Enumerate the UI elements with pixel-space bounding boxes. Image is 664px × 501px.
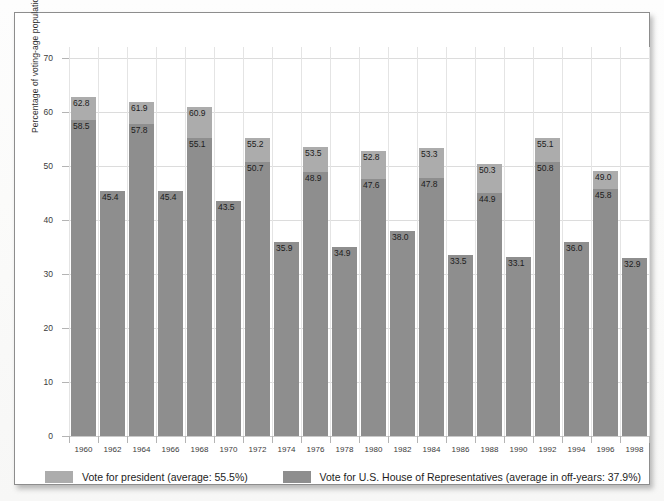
bar-value-house: 32.9 [624, 259, 641, 269]
y-tick-label: 70 [13, 53, 53, 63]
bar-1998[interactable]: 32.9 [622, 258, 647, 436]
bar-1970[interactable]: 43.5 [216, 201, 241, 436]
bar-1962[interactable]: 45.4 [100, 191, 125, 436]
y-tick-label: 60 [13, 107, 53, 117]
bar-value-house: 44.9 [479, 194, 496, 204]
x-gridline [649, 47, 650, 436]
bar-1960[interactable]: 58.562.8 [71, 97, 96, 436]
figure-container: Percentage of voting-age population part… [0, 0, 664, 501]
y-tick-mark [62, 328, 69, 329]
bar-1996[interactable]: 45.849.0 [593, 171, 618, 436]
x-tick-mark [214, 436, 215, 443]
bar-segment-house: 48.9 [303, 172, 328, 436]
bar-value-house: 57.8 [131, 125, 148, 135]
bar-1986[interactable]: 33.5 [448, 255, 473, 436]
bar-segment-house: 32.9 [622, 258, 647, 436]
x-tick-mark [388, 436, 389, 443]
legend-swatch-pres [45, 471, 73, 483]
bar-1976[interactable]: 48.953.5 [303, 147, 328, 436]
bar-value-president: 50.3 [479, 165, 496, 175]
bar-1984[interactable]: 47.853.3 [419, 148, 444, 436]
plot-area: 01020304050607058.562.845.457.861.945.45… [69, 47, 649, 436]
bar-segment-house: 33.1 [506, 257, 531, 436]
bar-value-house: 35.9 [276, 243, 293, 253]
bar-segment-president: 53.5 [303, 147, 328, 172]
x-gridline [562, 47, 563, 436]
bar-value-president: 53.5 [305, 148, 322, 158]
bar-1964[interactable]: 57.861.9 [129, 102, 154, 436]
bar-segment-president: 53.3 [419, 148, 444, 178]
bar-value-house: 43.5 [218, 202, 235, 212]
x-tick-mark [185, 436, 186, 443]
bar-value-president: 61.9 [131, 103, 148, 113]
bar-value-house: 50.7 [247, 163, 264, 173]
y-tick-mark [62, 436, 69, 437]
y-tick-mark [62, 58, 69, 59]
y-tick-mark [62, 382, 69, 383]
bar-value-house: 36.0 [566, 243, 583, 253]
x-gridline [98, 47, 99, 436]
bar-value-president: 62.8 [73, 98, 90, 108]
bar-value-house: 47.8 [421, 179, 438, 189]
bar-1978[interactable]: 34.9 [332, 247, 357, 436]
bar-1968[interactable]: 55.160.9 [187, 107, 212, 436]
y-tick-mark [62, 274, 69, 275]
bar-1992[interactable]: 50.855.1 [535, 138, 560, 436]
bar-segment-president: 61.9 [129, 102, 154, 124]
bar-value-house: 50.8 [537, 163, 554, 173]
bar-segment-house: 45.4 [100, 191, 125, 436]
bar-segment-house: 35.9 [274, 242, 299, 436]
bar-segment-house: 50.7 [245, 162, 270, 436]
bar-1988[interactable]: 44.950.3 [477, 164, 502, 436]
bar-1990[interactable]: 33.1 [506, 257, 531, 436]
y-tick-label: 20 [13, 323, 53, 333]
legend-swatch-house [283, 471, 311, 483]
bar-segment-president: 49.0 [593, 171, 618, 188]
x-gridline [359, 47, 360, 436]
x-tick-mark [272, 436, 273, 443]
bar-value-president: 52.8 [363, 152, 380, 162]
x-tick-mark [127, 436, 128, 443]
bar-value-president: 49.0 [595, 172, 612, 182]
x-gridline [620, 47, 621, 436]
bar-value-house: 47.6 [363, 180, 380, 190]
bar-value-president: 55.2 [247, 139, 264, 149]
y-tick-mark [62, 220, 69, 221]
bar-segment-house: 55.1 [187, 138, 212, 436]
x-gridline [475, 47, 476, 436]
x-tick-mark [446, 436, 447, 443]
x-gridline [214, 47, 215, 436]
y-tick-label: 40 [13, 215, 53, 225]
bar-value-house: 55.1 [189, 139, 206, 149]
bar-1966[interactable]: 45.4 [158, 191, 183, 436]
x-gridline [185, 47, 186, 436]
x-gridline [591, 47, 592, 436]
bar-segment-house: 36.0 [564, 242, 589, 437]
x-tick-mark [562, 436, 563, 443]
bar-segment-house: 58.5 [71, 120, 96, 436]
bar-segment-house: 57.8 [129, 124, 154, 436]
bar-1982[interactable]: 38.0 [390, 231, 415, 436]
y-tick-label: 30 [13, 269, 53, 279]
x-tick-mark [620, 436, 621, 443]
bar-1980[interactable]: 47.652.8 [361, 151, 386, 436]
x-gridline [388, 47, 389, 436]
bar-1974[interactable]: 35.9 [274, 242, 299, 436]
x-tick-mark [417, 436, 418, 443]
bar-1994[interactable]: 36.0 [564, 242, 589, 437]
x-tick-mark [649, 436, 650, 443]
x-tick-mark [243, 436, 244, 443]
bar-1972[interactable]: 50.755.2 [245, 138, 270, 436]
y-tick-mark [62, 166, 69, 167]
legend-item-house[interactable]: Vote for U.S. House of Representatives (… [283, 471, 641, 483]
x-tick-mark [156, 436, 157, 443]
chart-legend: Vote for president (average: 55.5%)Vote … [45, 466, 641, 488]
bar-segment-house: 47.6 [361, 179, 386, 436]
bar-value-house: 38.0 [392, 232, 409, 242]
bar-value-house: 48.9 [305, 173, 322, 183]
legend-item-pres[interactable]: Vote for president (average: 55.5%) [45, 471, 248, 483]
bar-segment-president: 55.1 [535, 138, 560, 161]
bar-segment-house: 43.5 [216, 201, 241, 436]
bar-segment-house: 38.0 [390, 231, 415, 436]
x-gridline [330, 47, 331, 436]
